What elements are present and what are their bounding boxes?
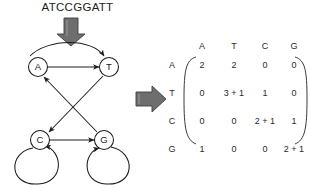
edge-a-to-t-curved [30, 43, 104, 57]
matrix-col-header-t: T [225, 41, 243, 51]
node-a-circle [29, 58, 48, 77]
node-c-circle [31, 131, 50, 150]
matrix-col-header-c: C [256, 41, 274, 51]
matrix-row-header-c: C [166, 116, 178, 126]
matrix-cell: 0 [279, 60, 309, 70]
right-block-arrow [136, 86, 166, 112]
edge-c-self-loop [15, 146, 59, 184]
matrix-cell: 1 [279, 116, 309, 126]
matrix-cell: 0 [279, 88, 309, 98]
down-block-arrow [57, 18, 85, 46]
figure-root: ATCCGGATT [0, 0, 310, 188]
matrix-row-header-t: T [166, 88, 178, 98]
matrix-cell: 0 [219, 116, 249, 126]
edge-g-self-loop [87, 147, 129, 184]
node-t-circle [100, 58, 119, 77]
matrix-cell: 0 [250, 144, 280, 154]
graph-nodes [29, 58, 119, 150]
edge-g-to-a [44, 77, 97, 132]
matrix-col-header-a: A [193, 41, 211, 51]
matrix-cell: 2 + 1 [250, 116, 280, 126]
matrix-cell: 3 + 1 [219, 88, 249, 98]
matrix-cell: 2 [219, 60, 249, 70]
matrix-cell: 0 [219, 144, 249, 154]
matrix-cell: 0 [187, 88, 217, 98]
matrix-cell: 0 [250, 60, 280, 70]
edge-t-to-c [49, 76, 103, 132]
node-g-circle [95, 131, 114, 150]
transition-count-matrix: A T C G A T C G 2 2 0 0 0 3 + 1 1 0 0 0 … [163, 36, 310, 166]
matrix-col-header-g: G [285, 41, 303, 51]
matrix-cell: 2 + 1 [279, 144, 309, 154]
matrix-cell: 0 [187, 116, 217, 126]
matrix-row-header-a: A [166, 60, 178, 70]
matrix-cell: 2 [187, 60, 217, 70]
matrix-row-header-g: G [166, 144, 178, 154]
matrix-cell: 1 [187, 144, 217, 154]
matrix-cell: 1 [250, 88, 280, 98]
